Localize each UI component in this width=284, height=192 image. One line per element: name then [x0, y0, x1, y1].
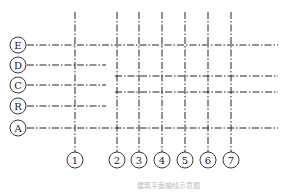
axis-bubble-2: 2: [109, 152, 125, 168]
axis-bubble-4: 4: [154, 152, 170, 168]
axis-label: R: [14, 101, 22, 112]
figure-caption: 建筑平面轴线示意图: [137, 181, 200, 190]
axis-bubble-A: A: [10, 120, 26, 136]
axis-label: D: [14, 60, 22, 71]
axis-bubble-D: D: [10, 57, 26, 73]
axis-bubble-3: 3: [131, 152, 147, 168]
axis-label: 6: [205, 155, 211, 166]
axis-grid-diagram: EDCRA1234567建筑平面轴线示意图: [0, 0, 284, 192]
axis-label: A: [13, 123, 22, 134]
axis-label: E: [14, 40, 21, 51]
axis-bubble-6: 6: [200, 152, 216, 168]
axis-label: 1: [72, 155, 78, 166]
axis-label: 4: [159, 155, 165, 166]
axis-bubble-R: R: [10, 98, 26, 114]
axis-bubble-7: 7: [223, 152, 239, 168]
axis-label: 3: [136, 155, 142, 166]
axis-bubble-E: E: [10, 37, 26, 53]
axis-bubble-1: 1: [67, 152, 83, 168]
axis-grid-canvas: EDCRA1234567建筑平面轴线示意图: [0, 0, 284, 192]
axis-label: 2: [114, 155, 120, 166]
axis-bubble-5: 5: [177, 152, 193, 168]
axis-label: C: [14, 80, 22, 91]
axis-bubble-C: C: [10, 77, 26, 93]
axis-label: 7: [228, 155, 234, 166]
axis-label: 5: [182, 155, 188, 166]
